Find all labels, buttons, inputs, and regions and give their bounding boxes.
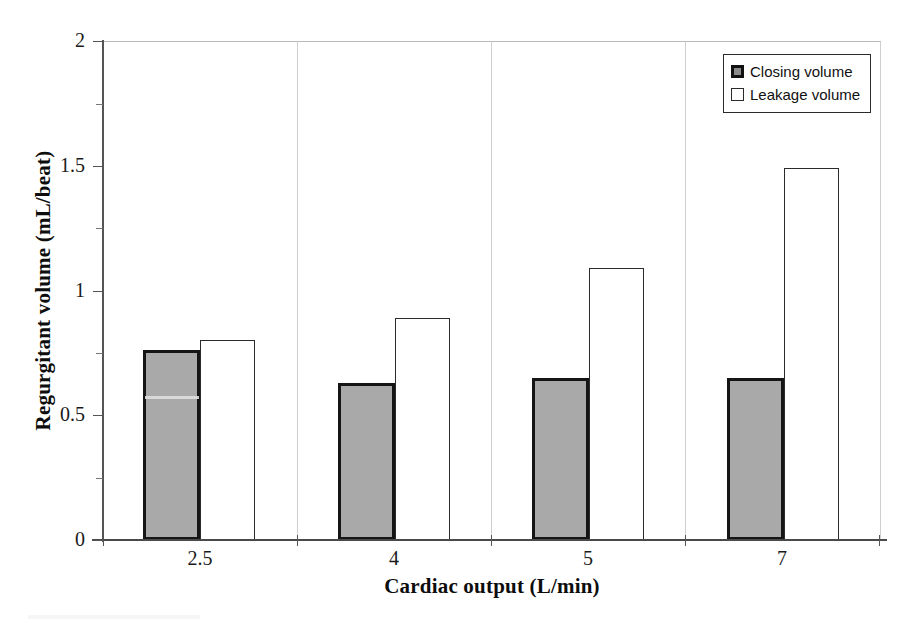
bar-chart-figure: 0 0.5 1 1.5 2 2.5 4 5 7 Regurgitant volu… bbox=[0, 0, 914, 623]
filled-gray-square-icon bbox=[731, 65, 744, 78]
bar-closing-volume-7 bbox=[727, 378, 784, 540]
y-tick-label-1: 1 bbox=[75, 280, 85, 300]
bar-closing-volume-4 bbox=[338, 383, 395, 540]
x-axis-title: Cardiac output (L/min) bbox=[103, 574, 881, 599]
legend-label-closing-volume: Closing volume bbox=[750, 63, 853, 80]
y-minor-tick-0-75 bbox=[96, 353, 103, 354]
x-tick-sep-3 bbox=[685, 535, 686, 546]
x-axis-line bbox=[92, 539, 887, 541]
category-separator-line-1 bbox=[297, 41, 298, 540]
y-tick-label-2: 2 bbox=[75, 30, 85, 50]
y-minor-tick-0-25 bbox=[96, 478, 103, 479]
x-tick-left-edge bbox=[103, 535, 104, 546]
y-tick-0: 0 bbox=[93, 540, 103, 541]
x-tick-sep-2 bbox=[491, 535, 492, 546]
legend-item-leakage-volume: Leakage volume bbox=[731, 83, 863, 106]
y-minor-tick-1-75 bbox=[96, 104, 103, 105]
bar-leakage-volume-7 bbox=[784, 168, 839, 540]
legend-label-leakage-volume: Leakage volume bbox=[750, 86, 860, 103]
y-axis-title: Regurgitant volume (mL/beat) bbox=[26, 41, 60, 540]
x-tick-label-2-5: 2.5 bbox=[103, 547, 297, 569]
legend-item-closing-volume: Closing volume bbox=[731, 60, 863, 83]
bar-leakage-volume-4 bbox=[395, 318, 450, 540]
x-tick-label-4: 4 bbox=[297, 547, 491, 569]
bar-closing-volume-5 bbox=[532, 378, 589, 540]
y-tick-1: 1 bbox=[93, 291, 103, 292]
y-tick-label-0-5: 0.5 bbox=[60, 404, 85, 424]
chart-legend: Closing volume Leakage volume bbox=[723, 54, 871, 113]
bar-leakage-volume-2-5 bbox=[200, 340, 255, 540]
x-tick-label-5: 5 bbox=[491, 547, 685, 569]
empty-square-icon bbox=[731, 88, 744, 101]
x-tick-sep-1 bbox=[297, 535, 298, 546]
bar-leakage-volume-5 bbox=[589, 268, 644, 540]
scan-streak-artifact bbox=[145, 396, 199, 399]
scan-smudge-artifact bbox=[28, 615, 200, 619]
y-tick-0-5: 0.5 bbox=[93, 415, 103, 416]
y-tick-2: 2 bbox=[93, 41, 103, 42]
x-tick-right-edge bbox=[879, 535, 880, 546]
y-minor-tick-1-25 bbox=[96, 228, 103, 229]
y-tick-label-0: 0 bbox=[75, 529, 85, 549]
category-separator-line-2 bbox=[491, 41, 492, 540]
y-tick-label-1-5: 1.5 bbox=[60, 155, 85, 175]
x-tick-label-7: 7 bbox=[685, 547, 879, 569]
y-tick-1-5: 1.5 bbox=[93, 166, 103, 167]
category-separator-line-3 bbox=[685, 41, 686, 540]
bar-closing-volume-2-5 bbox=[143, 350, 200, 540]
